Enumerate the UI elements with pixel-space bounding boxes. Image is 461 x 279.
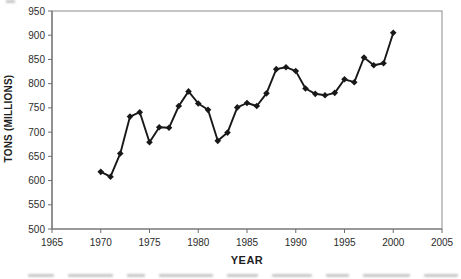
data-point	[273, 66, 280, 73]
y-tick-label: 500	[28, 224, 45, 235]
data-point	[127, 113, 134, 120]
x-tick-label: 1980	[187, 237, 210, 248]
x-axis-title: YEAR	[52, 254, 442, 266]
data-point	[351, 79, 358, 86]
y-tick-label: 900	[28, 30, 45, 41]
x-tick-label: 1965	[41, 237, 64, 248]
data-point	[283, 64, 290, 71]
data-point	[117, 150, 124, 157]
y-tick-label: 700	[28, 127, 45, 138]
data-point	[244, 100, 251, 107]
x-tick-label: 1985	[236, 237, 259, 248]
data-point	[107, 173, 114, 180]
data-point	[380, 60, 387, 67]
x-tick-label: 2005	[431, 237, 454, 248]
data-point	[136, 109, 143, 116]
y-tick-label: 850	[28, 54, 45, 65]
data-point	[166, 124, 173, 131]
x-tick-label: 2000	[382, 237, 405, 248]
line-chart-plot: 5005506006507007508008509009501965197019…	[0, 0, 461, 279]
y-tick-label: 550	[28, 199, 45, 210]
data-point	[234, 104, 241, 111]
y-tick-label: 950	[28, 6, 45, 17]
y-axis-title: TONS (MILLIONS)	[3, 54, 14, 184]
x-tick-label: 1990	[285, 237, 308, 248]
data-point	[390, 30, 397, 37]
y-tick-label: 800	[28, 78, 45, 89]
x-tick-label: 1995	[333, 237, 356, 248]
y-tick-label: 650	[28, 151, 45, 162]
chart-figure: 5005506006507007508008509009501965197019…	[0, 0, 461, 279]
plot-frame	[52, 11, 442, 229]
x-tick-label: 1975	[138, 237, 161, 248]
data-point	[97, 169, 104, 176]
cropped-text-artifact	[28, 274, 458, 279]
y-tick-label: 600	[28, 175, 45, 186]
y-tick-label: 750	[28, 102, 45, 113]
data-point	[322, 92, 329, 99]
scan-artifact	[6, 0, 15, 3]
x-tick-label: 1970	[90, 237, 113, 248]
